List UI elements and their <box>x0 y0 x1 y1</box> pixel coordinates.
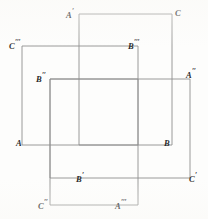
vertex-label-c-prime: C′ <box>189 172 197 183</box>
vertex-label-c-triple-prime: C′′′ <box>9 39 20 50</box>
vertex-label-a: A <box>16 139 22 148</box>
vertex-label-primes: ′′ <box>44 198 48 207</box>
vertex-label-primes: ′ <box>195 171 197 180</box>
vertex-label-a-double-prime: A′′ <box>186 68 196 79</box>
figure-canvas <box>0 0 208 219</box>
vertex-label-primes: ′′′ <box>134 38 139 47</box>
vertex-label-b-double-prime: B′′ <box>36 72 46 83</box>
vertex-label-a-triple-prime: A′′′ <box>115 199 126 210</box>
vertex-label-b: B <box>164 139 170 148</box>
vertex-label-b-prime: B′ <box>76 172 84 183</box>
vertex-label-base: A <box>16 138 22 148</box>
vertex-label-primes: ′ <box>72 7 74 16</box>
vertex-label-base: C <box>175 8 181 18</box>
rectangle-group <box>22 14 190 205</box>
vertex-label-primes: ′′ <box>42 71 46 80</box>
vertex-label-c-double-prime: C′′ <box>38 199 48 210</box>
vertex-label-primes: ′′ <box>192 67 196 76</box>
vertex-label-a-prime: A′ <box>66 8 74 19</box>
rectangle-B-double-prime-A-double-prime <box>50 79 190 178</box>
rectangle-B-prime-A-triple-prime <box>50 79 138 205</box>
vertex-label-base: B <box>164 138 170 148</box>
rectangle-A-prime-C <box>79 14 172 145</box>
vertex-label-c: C <box>175 9 181 18</box>
vertex-label-primes: ′′′ <box>121 198 126 207</box>
geometry-figure: A′CC′′′B′′′B′′A′′ABB′C′C′′A′′′ <box>0 0 208 219</box>
vertex-label-primes: ′′′ <box>15 38 20 47</box>
vertex-label-b-triple-prime: B′′′ <box>128 39 139 50</box>
rectangle-C-triple-prime-B-triple-prime <box>22 46 138 145</box>
vertex-label-primes: ′ <box>82 171 84 180</box>
